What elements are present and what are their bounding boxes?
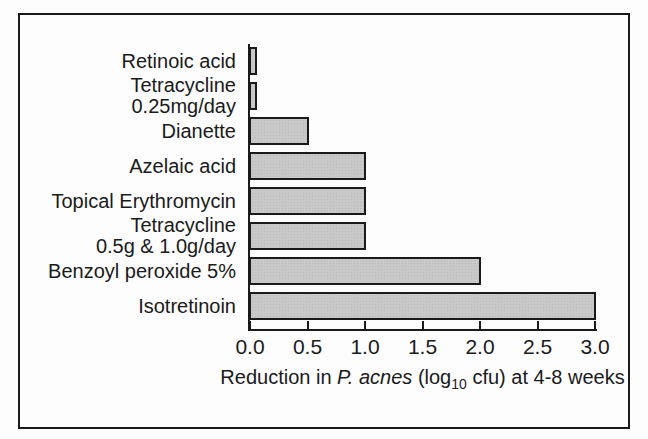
- category-label-5: Tetracycline0.5g & 1.0g/day: [96, 215, 236, 257]
- bar-2: [249, 117, 309, 145]
- category-label-3: Azelaic acid: [129, 156, 236, 177]
- x-axis-title-text: (log: [412, 366, 451, 388]
- x-tick-label-0: 0.0: [235, 335, 264, 359]
- x-tick-6: [594, 321, 596, 329]
- x-tick-0: [249, 321, 251, 329]
- x-tick-5: [537, 321, 539, 329]
- category-label-1: Tetracycline0.25mg/day: [130, 75, 236, 117]
- x-tick-4: [479, 321, 481, 329]
- bar-3: [249, 152, 366, 180]
- bar-7: [249, 292, 596, 320]
- bar-4: [249, 187, 366, 215]
- x-axis-title-text: Reduction in: [220, 366, 337, 388]
- category-label-4: Topical Erythromycin: [51, 191, 236, 212]
- category-label-0: Retinoic acid: [121, 51, 236, 72]
- x-tick-3: [422, 321, 424, 329]
- x-axis-line: [248, 329, 597, 331]
- species-name: P. acnes: [337, 366, 412, 388]
- figure-page: Retinoic acidTetracycline0.25mg/dayDiane…: [0, 0, 648, 439]
- bar-1: [249, 82, 257, 110]
- category-label-7: Isotretinoin: [138, 296, 236, 317]
- x-axis-title-text: cfu) at 4-8 weeks: [467, 366, 625, 388]
- x-tick-label-2: 1.0: [350, 335, 379, 359]
- x-tick-label-6: 3.0: [580, 335, 609, 359]
- x-tick-2: [364, 321, 366, 329]
- x-tick-1: [307, 321, 309, 329]
- x-axis-title: Reduction in P. acnes (log10 cfu) at 4-8…: [220, 366, 624, 389]
- category-label-2: Dianette: [162, 121, 237, 142]
- bar-6: [249, 257, 481, 285]
- bar-0: [249, 47, 257, 75]
- x-tick-label-4: 2.0: [465, 335, 494, 359]
- x-tick-label-3: 1.5: [408, 335, 437, 359]
- log-subscript: 10: [451, 376, 467, 392]
- x-tick-label-5: 2.5: [523, 335, 552, 359]
- x-tick-label-1: 0.5: [293, 335, 322, 359]
- y-axis-line: [248, 44, 250, 331]
- category-label-6: Benzoyl peroxide 5%: [48, 261, 236, 282]
- bar-5: [249, 222, 366, 250]
